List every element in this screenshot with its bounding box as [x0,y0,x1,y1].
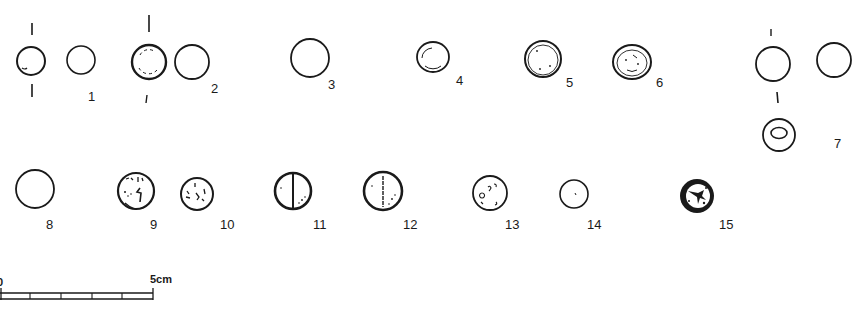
item-13: 13 [473,176,519,232]
item-4: 4 [417,42,463,88]
item-label: 11 [313,217,327,232]
item-label: 7 [834,136,841,151]
item-label: 1 [88,89,95,104]
item-label: 13 [505,217,519,232]
item-label: 6 [656,75,663,90]
item-5: 5 [525,41,573,90]
item-label: 8 [46,217,53,232]
item-label: 3 [328,77,335,92]
item-14: 14 [560,180,601,232]
item-label: 9 [150,217,157,232]
item-6: 6 [613,45,663,90]
item-label: 2 [211,81,218,96]
scale-bar: 0 5cm [0,273,172,300]
item-label: 12 [403,217,417,232]
scale-start-label: 0 [0,276,3,288]
item-7: 7 [756,29,851,151]
item-10: 10 [181,178,234,232]
item-9: 9 [118,173,157,232]
item-3: 3 [291,39,335,92]
item-label: 5 [566,75,573,90]
item-label: 15 [719,217,733,232]
item-8: 8 [16,170,54,232]
item-label: 14 [587,217,601,232]
scale-end-label: 5cm [150,273,172,285]
item-label: 10 [220,217,234,232]
item-2: 2 [132,15,218,103]
item-12: 12 [364,172,417,232]
figure-plate: 1 2 3 4 5 6 [0,0,854,316]
item-label: 4 [456,73,463,88]
item-15: 15 [680,179,733,232]
item-1: 1 [17,23,95,104]
item-11: 11 [275,173,327,232]
